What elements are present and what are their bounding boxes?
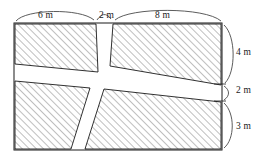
dimension-label-right-middle: 2 m (236, 86, 251, 96)
dimension-label-top-middle: 2 m (99, 11, 114, 21)
region-top-left-block (15, 24, 98, 72)
dimension-label-right-upper: 4 m (236, 48, 251, 58)
brace-top-6m (16, 11, 94, 21)
brace-right-4m (224, 25, 233, 83)
geometry-figure (0, 0, 268, 159)
dimension-label-top-right: 8 m (155, 11, 170, 21)
brace-right-3m (224, 103, 232, 148)
diagram-canvas: 6 m 2 m 8 m 4 m 2 m 3 m (0, 0, 268, 159)
brace-right-2m (224, 86, 229, 100)
dimension-label-right-lower: 3 m (236, 122, 251, 132)
dimension-label-top-left: 6 m (38, 11, 53, 21)
